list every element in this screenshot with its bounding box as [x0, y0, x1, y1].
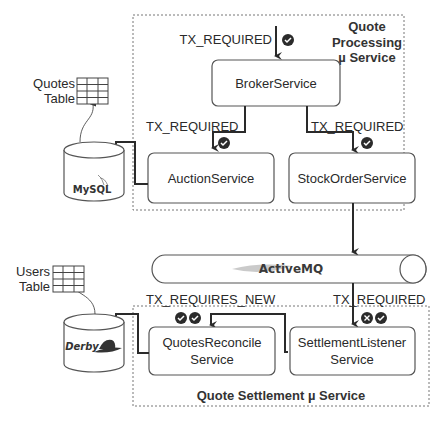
mysql-label: MySQL	[73, 184, 112, 195]
quotes-table-label-1: Quotes	[33, 76, 75, 91]
auction-service-box[interactable]: AuctionService	[148, 153, 274, 203]
stock-tx-label: TX_REQUIRED	[311, 119, 403, 134]
listener-tx-label: TX_REQUIRED	[333, 292, 425, 307]
reconcile-tx-label: TX_REQUIRES_NEW	[146, 292, 276, 307]
broker-service-box[interactable]: BrokerService	[212, 60, 340, 106]
quotesreconcile-label-2: Service	[190, 352, 233, 367]
quote-settlement-title: Quote Settlement µ Service	[197, 388, 366, 403]
derby-database: Derby	[64, 314, 124, 372]
listener-cross-icon	[361, 312, 373, 324]
entry-check-icon	[282, 34, 294, 46]
quotesreconcile-service-box[interactable]: QuotesReconcile Service	[149, 327, 275, 375]
settlementlistener-label-1: SettlementListener	[298, 335, 407, 350]
derby-label: Derby	[65, 341, 99, 352]
quote-processing-title-3: µ Service	[338, 50, 395, 65]
listener-check-icon	[375, 312, 387, 324]
auction-service-label: AuctionService	[168, 171, 255, 186]
quote-processing-title-1: Quote	[348, 19, 386, 34]
stockorder-service-label: StockOrderService	[297, 171, 406, 186]
users-table-label-1: Users	[16, 264, 50, 279]
quotesreconcile-label-1: QuotesReconcile	[163, 335, 262, 350]
mysql-to-quotes-table-arrow	[80, 104, 93, 142]
auction-check-icon	[218, 137, 230, 149]
stock-check-icon	[361, 137, 373, 149]
stockorder-service-box[interactable]: StockOrderService	[289, 153, 415, 203]
quotes-table-label-2: Table	[44, 91, 75, 106]
activemq-queue: ActiveMQ	[152, 255, 426, 283]
activemq-label: ActiveMQ	[259, 262, 323, 276]
auction-tx-label: TX_REQUIRED	[146, 119, 238, 134]
settlementlistener-service-box[interactable]: SettlementListener Service	[290, 327, 415, 375]
entry-tx-label: TX_REQUIRED	[180, 32, 272, 47]
architecture-diagram: Quote Processing µ Service Quote Settlem…	[0, 0, 446, 421]
settlementlistener-label-2: Service	[330, 352, 373, 367]
reconcile-check-icon-1	[175, 312, 187, 324]
broker-service-label: BrokerService	[235, 76, 317, 91]
reconcile-check-icon-2	[189, 312, 201, 324]
quote-processing-title-2: Processing	[332, 35, 402, 50]
mysql-database: MySQL	[64, 142, 124, 201]
quotes-table-icon	[77, 78, 108, 104]
users-table-label-2: Table	[19, 279, 50, 294]
users-table-icon	[53, 266, 84, 292]
